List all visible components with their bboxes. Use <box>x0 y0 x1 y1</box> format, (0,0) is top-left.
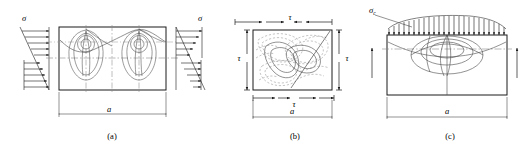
panel-c-reaction-arrows <box>372 48 517 78</box>
panel-c-dimension-label: a <box>445 106 449 116</box>
panel-c: σc <box>369 5 517 141</box>
stress-diagram-figure: σ <box>0 0 526 150</box>
panel-b: τ τ <box>235 12 349 141</box>
panel-c-caption: (c) <box>445 131 455 141</box>
figure-root: σ <box>0 0 526 150</box>
panel-b-contour-lobes <box>265 42 321 78</box>
panel-b-caption: (b) <box>290 131 300 141</box>
panel-a-caption: (a) <box>107 131 117 141</box>
panel-a-section-rect <box>59 27 166 90</box>
panel-b-tau-label-left: τ <box>237 53 241 63</box>
panel-a-right-arrow-group-top <box>176 27 202 58</box>
panel-a-left-stress-diagram <box>20 27 49 90</box>
panel-c-load-envelope <box>388 15 506 29</box>
panel-b-dashed-contour-field <box>256 34 329 86</box>
panel-a-sigma-label-left: σ <box>22 13 27 23</box>
panel-a-left-arrow-group-top <box>22 31 49 55</box>
panel-b-diagonal-line <box>291 31 330 88</box>
panel-b-tau-label-right: τ <box>345 53 349 63</box>
panel-a-wave-curve-2 <box>86 29 112 46</box>
panel-a-wave-curve <box>60 29 166 52</box>
panel-c-sigma-c-label: σc <box>369 5 376 16</box>
panel-b-tau-label-top: τ <box>288 12 292 22</box>
panel-b-left-shear-arrows <box>244 30 250 90</box>
panel-a-right-arrow-group-bottom <box>181 60 201 90</box>
panel-a-dimension-label: a <box>107 104 111 114</box>
panel-a-left-arrow-group-bottom <box>24 60 49 90</box>
panel-a-dimension <box>59 92 166 117</box>
panel-b-top-shear-arrows <box>235 19 332 25</box>
panel-a-right-stress-diagram <box>176 27 205 90</box>
panel-b-dimension-label: a <box>290 106 294 116</box>
panel-b-right-shear-arrows <box>336 30 342 90</box>
panel-a: σ <box>20 13 205 141</box>
panel-a-sigma-label-right: σ <box>198 13 203 23</box>
